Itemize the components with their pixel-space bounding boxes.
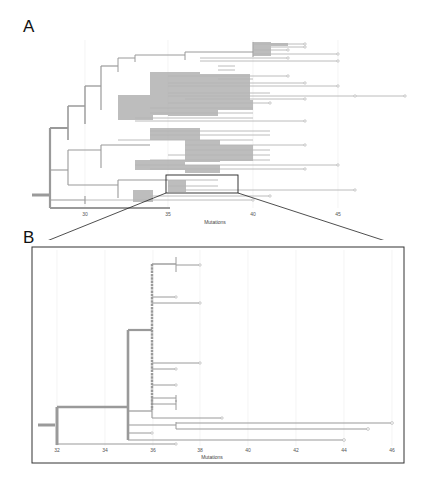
- panel-b-tree: [0, 0, 426, 488]
- panel-b-tick-42: 42: [293, 447, 299, 453]
- panel-b-tick-34: 34: [102, 447, 108, 453]
- panel-b-tick-46: 46: [389, 447, 395, 453]
- panel-b-tick-32: 32: [54, 447, 60, 453]
- panel-b-tick-36: 36: [150, 447, 156, 453]
- panel-b-tick-44: 44: [341, 447, 347, 453]
- panel-b-tick-38: 38: [197, 447, 203, 453]
- panel-b-tick-40: 40: [245, 447, 251, 453]
- panel-b-frame: [32, 247, 404, 463]
- panel-b-xlabel: Mutations: [201, 454, 223, 460]
